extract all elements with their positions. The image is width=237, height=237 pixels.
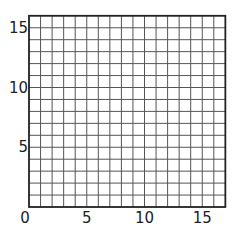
x-tick-label: 15 — [193, 211, 212, 226]
y-tick-label: 5 — [18, 140, 28, 155]
x-tick-label: 10 — [135, 211, 154, 226]
coordinate-grid — [0, 0, 237, 237]
x-tick-label: 0 — [20, 211, 30, 226]
y-tick-label: 15 — [9, 20, 28, 35]
y-tick-label: 10 — [9, 80, 28, 95]
x-tick-label: 5 — [82, 211, 92, 226]
